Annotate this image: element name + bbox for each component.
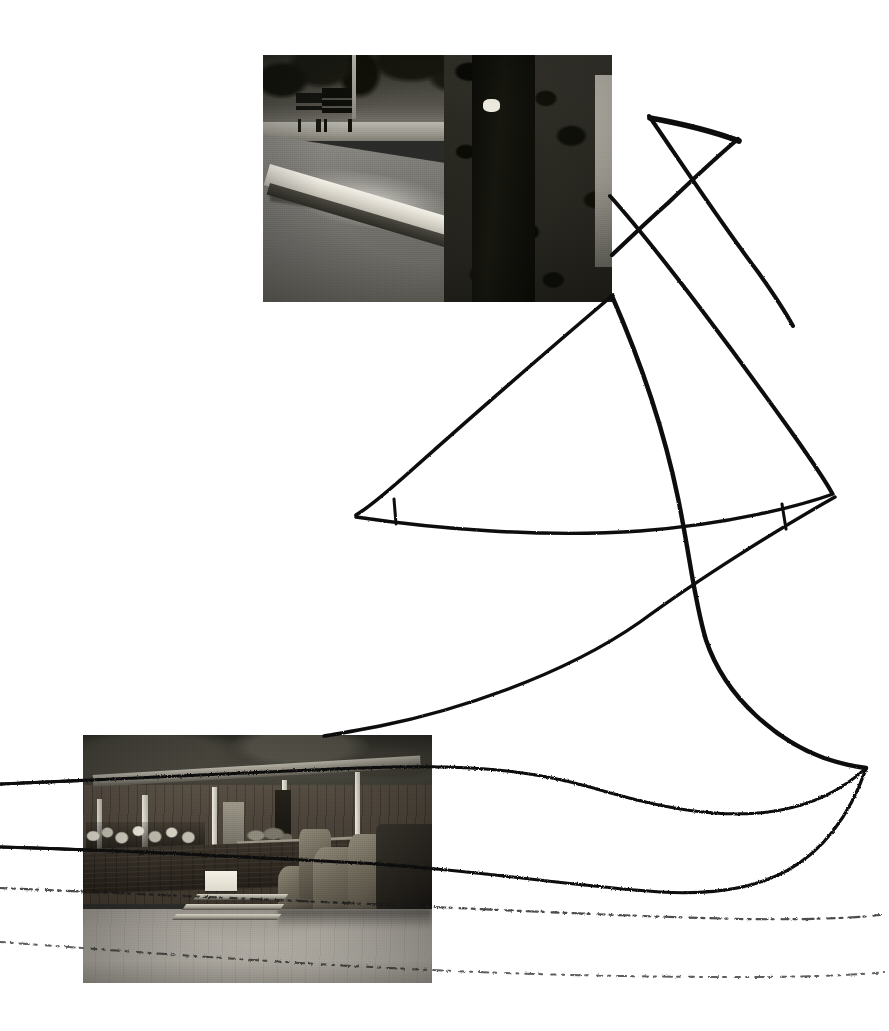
step-3: [172, 914, 281, 920]
tree-trunk: [472, 55, 535, 302]
collage-artboard: [0, 0, 889, 1031]
photo-pavilion: [83, 735, 432, 983]
park-bench-left: [296, 93, 322, 120]
photo-roadside: [263, 55, 612, 302]
step-2: [182, 904, 284, 910]
photo-roadside-content: [263, 55, 612, 302]
photo-pavilion-content: [83, 735, 432, 983]
boulder-5: [376, 824, 432, 913]
white-podium-block: [205, 871, 236, 891]
leaf-highlight: [483, 99, 500, 111]
park-bench-right: [322, 88, 353, 120]
utility-pole: [352, 55, 356, 119]
step-1: [193, 894, 288, 900]
plaza-shadow: [278, 909, 432, 929]
wall-sliver: [595, 75, 612, 268]
treeline-region: [263, 55, 472, 129]
